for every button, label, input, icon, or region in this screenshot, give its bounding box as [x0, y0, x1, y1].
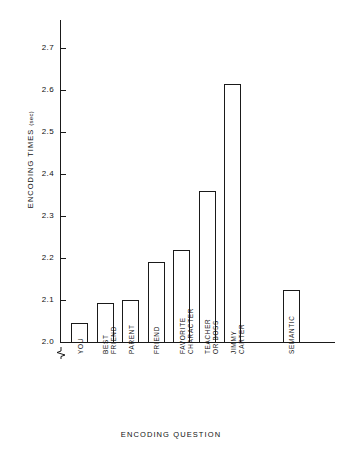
- x-axis-title: ENCODING QUESTION: [0, 430, 342, 439]
- x-tick-label: SEMANTIC: [288, 315, 296, 354]
- x-tick-label: FAVORITE CHARACTER: [179, 308, 194, 354]
- y-tick-label: 2.6: [26, 86, 54, 94]
- y-tick-mark: [61, 132, 66, 133]
- y-tick-label: 2.0: [26, 338, 54, 346]
- y-axis-title-main: ENCODING TIMES: [26, 129, 35, 208]
- x-tick-label: YOU: [77, 338, 85, 354]
- y-tick-mark: [61, 300, 66, 301]
- y-tick-label: 2.1: [26, 296, 54, 304]
- axis-break-icon: [56, 347, 66, 359]
- y-tick-label: 2.5: [26, 128, 54, 136]
- y-axis-title: ENCODING TIMES (sec): [26, 70, 35, 250]
- x-tick-label: FRIEND: [153, 326, 161, 354]
- plot-area: [60, 20, 335, 343]
- y-tick-mark: [61, 174, 66, 175]
- y-tick-mark: [61, 342, 66, 343]
- x-tick-label: PARENT: [128, 324, 136, 354]
- x-tick-label: JIMMY CARTER: [230, 324, 245, 354]
- bar: [224, 84, 241, 342]
- y-tick-mark: [61, 90, 66, 91]
- bar-chart: ENCODING TIMES (sec) 2.02.12.22.32.42.52…: [0, 0, 342, 456]
- y-axis-line: [60, 20, 61, 343]
- y-tick-mark: [61, 258, 66, 259]
- x-tick-label: BEST FRIEND: [102, 326, 117, 354]
- y-tick-label: 2.7: [26, 44, 54, 52]
- y-axis-title-unit: (sec): [28, 111, 34, 126]
- y-tick-mark: [61, 216, 66, 217]
- y-tick-label: 2.4: [26, 170, 54, 178]
- x-tick-label: TEACHER OR BOSS: [204, 319, 219, 354]
- y-tick-mark: [61, 48, 66, 49]
- y-tick-label: 2.2: [26, 254, 54, 262]
- y-tick-label: 2.3: [26, 212, 54, 220]
